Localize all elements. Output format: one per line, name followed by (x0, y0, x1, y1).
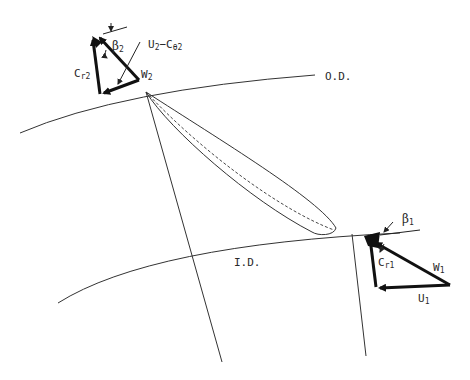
radial-line-inlet (352, 234, 366, 356)
outlet-velocity-triangle (92, 23, 140, 94)
id-label: I.D. (234, 257, 261, 268)
inner-diameter-arc (58, 233, 400, 303)
impeller-diagram: O.D. I.D. Cr2 W2 β2 U2−Cθ2 β1 Cr1 W1 U1 (0, 0, 470, 380)
inlet-velocity-triangle (364, 222, 450, 288)
cr1-label: Cr1 (378, 257, 394, 270)
radial-line-outlet (146, 92, 222, 362)
u2-minus-ctheta2-label: U2−Cθ2 (148, 39, 182, 52)
blade-profile (146, 92, 336, 235)
w2-label: W2 (141, 69, 152, 82)
diagram-canvas (0, 0, 470, 380)
beta2-label: β2 (112, 40, 124, 54)
blade-camber-line (146, 92, 334, 230)
u1-label: U1 (418, 293, 429, 306)
w1-label: W1 (433, 262, 444, 275)
outer-diameter-arc (20, 75, 315, 133)
beta1-label: β1 (402, 213, 414, 227)
cr2-label: Cr2 (74, 68, 90, 81)
od-label: O.D. (325, 71, 352, 82)
